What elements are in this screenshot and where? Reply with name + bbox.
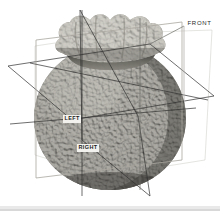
object-group [30, 10, 192, 204]
orientation-viewport: FRONT LEFT RIGHT [0, 0, 220, 211]
axis-label-right: RIGHT [77, 144, 99, 152]
scene-canvas [0, 0, 220, 211]
image-bottom-border [0, 209, 220, 211]
axis-label-left: LEFT [63, 115, 81, 123]
axis-label-front: FRONT [186, 19, 213, 27]
